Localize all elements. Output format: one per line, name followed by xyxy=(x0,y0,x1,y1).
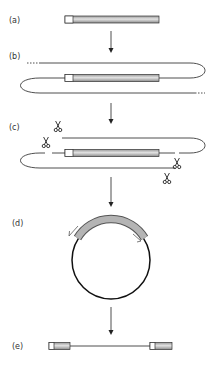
panel-label-b: (b) xyxy=(9,52,20,61)
scissors-icon xyxy=(173,158,181,169)
panel-c: (c) xyxy=(9,121,205,184)
panel-d: (d) xyxy=(12,219,150,299)
panel-label-a: (a) xyxy=(9,16,20,25)
arrow-down-icon xyxy=(109,103,114,124)
arrow-down-icon xyxy=(109,31,114,53)
panel-label-e: (e) xyxy=(12,342,23,351)
scissors-icon xyxy=(54,121,62,132)
panel-label-d: (d) xyxy=(12,219,23,228)
diagram-canvas: (a) (b) (c) xyxy=(0,0,215,365)
dna-fragment xyxy=(65,75,159,82)
arrow-down-icon xyxy=(109,177,114,207)
arrow-down-icon xyxy=(109,307,114,335)
panel-a: (a) xyxy=(9,16,159,25)
flank-left xyxy=(49,343,70,350)
flank-right xyxy=(150,343,172,350)
dna-fragment xyxy=(65,150,159,157)
scissors-icon xyxy=(163,173,171,184)
dna-fragment xyxy=(65,16,159,23)
panel-label-c: (c) xyxy=(9,123,20,132)
panel-b: (b) xyxy=(9,52,205,93)
scissors-icon xyxy=(42,137,50,148)
panel-e: (e) xyxy=(12,342,172,351)
